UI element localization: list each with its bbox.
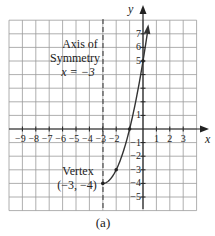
y-tick-label: −4 xyxy=(127,177,141,189)
x-tick-label: −2 xyxy=(106,133,122,145)
data-point xyxy=(141,59,145,63)
data-point xyxy=(101,182,105,186)
x-axis-label: x xyxy=(205,133,210,145)
y-axis-label: y xyxy=(128,3,133,15)
y-tick-label: 6 xyxy=(127,41,141,53)
y-tick-label: −2 xyxy=(127,150,141,162)
y-tick-label: 5 xyxy=(127,55,141,67)
figure-caption: (a) xyxy=(88,217,118,229)
data-point xyxy=(128,127,132,131)
vertex-label-line1: Vertex xyxy=(58,165,98,177)
y-tick-label: −3 xyxy=(127,164,141,176)
y-tick-label: 1 xyxy=(127,109,141,121)
y-tick-label: −1 xyxy=(127,137,141,149)
symmetry-label-line3: x = −3 xyxy=(56,66,100,78)
x-tick-label: 3 xyxy=(175,133,191,145)
y-axis-arrow-icon xyxy=(140,5,147,14)
symmetry-label-line1: Axis of xyxy=(60,38,100,50)
vertex-label-line2: (−3, −4) xyxy=(54,179,100,191)
y-tick-label: 7 xyxy=(127,28,141,40)
symmetry-label-line2: Symmetry xyxy=(50,52,100,64)
curve-arrow-icon xyxy=(144,24,151,34)
data-point xyxy=(114,168,118,172)
y-tick-label: −5 xyxy=(127,191,141,203)
graph xyxy=(0,0,215,236)
